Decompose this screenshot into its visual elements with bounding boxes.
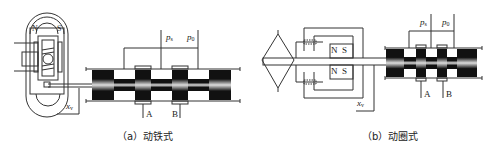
spool-a	[92, 70, 231, 100]
spring-diamond	[262, 34, 294, 88]
displacement-label: xv	[357, 99, 364, 108]
caption-a: （a）动铁式	[117, 128, 173, 143]
port-a-label: A	[424, 90, 431, 99]
magnet-s-label: S	[57, 25, 61, 33]
port-b-label: B	[172, 110, 178, 119]
magnet-s-label: S	[342, 67, 347, 76]
supply-pressure-label: ps	[420, 18, 427, 27]
caption-b: （b）动圈式	[362, 128, 418, 143]
displacement-label: xv	[66, 102, 73, 111]
port-b-label: B	[446, 90, 452, 99]
diagram-canvas	[0, 0, 487, 149]
spool-b	[386, 49, 477, 77]
port-a-label: A	[146, 110, 153, 119]
supply-pressure-label: ps	[166, 33, 173, 42]
magnet-n-label: N	[331, 46, 338, 55]
magnet-n-label: N	[331, 67, 338, 76]
return-pressure-label: p0	[187, 33, 195, 42]
return-pressure-label: p0	[442, 18, 450, 27]
magnet-n-label: N	[32, 25, 38, 33]
servo-valve-figure: N S ps p0 A B xv （a）动铁式 N S N S ps p0 A …	[0, 0, 487, 149]
magnet-s-label: S	[342, 46, 347, 55]
